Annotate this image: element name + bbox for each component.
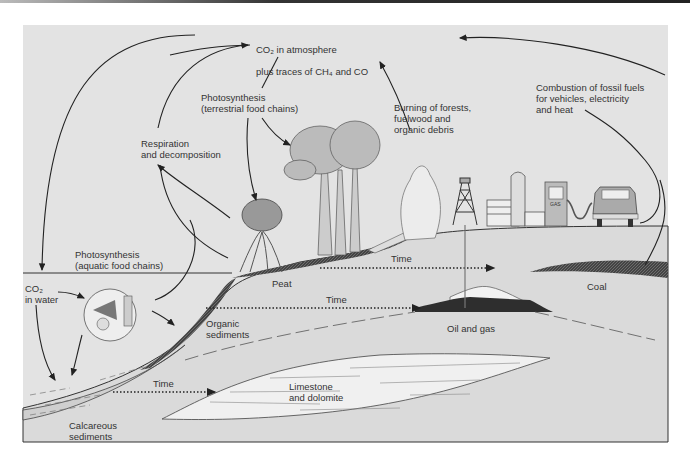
arrow-sediment-to-respiration — [160, 165, 228, 258]
arrow-plankton-to-organic — [152, 311, 174, 325]
arrow-water-to-calcareous — [36, 305, 55, 380]
arrow-water-to-plankton — [58, 292, 84, 298]
label-atmosphere-line1: CO₂ in atmosphere — [256, 44, 368, 55]
car-illustration — [593, 187, 638, 227]
arrow-combustion-to-atmosphere — [460, 37, 665, 75]
arrow-photosynthesis-to-trees — [262, 118, 290, 145]
label-time-1: Time — [391, 253, 412, 264]
label-terrestrial-photosynthesis: Photosynthesis (terrestrial food chains) — [201, 92, 298, 114]
label-organic-sediments: Organic sediments — [206, 318, 249, 340]
arrow-mangrove-to-respiration — [158, 165, 230, 218]
label-combustion: Combustion of fossil fuels for vehicles,… — [536, 82, 644, 115]
plankton-illustration — [84, 289, 136, 341]
label-time-3: Time — [153, 378, 174, 389]
label-burning: Burning of forests, fuelwood and organic… — [394, 102, 471, 135]
mangrove-illustration — [240, 199, 282, 272]
forest-illustration — [284, 121, 415, 255]
label-peat: Peat — [272, 278, 292, 289]
arrow-respiration-to-atmosphere — [158, 45, 248, 128]
label-calcareous: Calcareous sediments — [69, 420, 117, 442]
label-coal: Coal — [587, 281, 607, 292]
label-limestone: Limestone and dolomite — [289, 381, 343, 403]
arrow-plankton-to-calcareous — [72, 335, 82, 375]
refinery-illustration — [487, 172, 545, 226]
label-aquatic-photosynthesis: Photosynthesis (aquatic food chains) — [75, 249, 163, 271]
label-oil-gas: Oil and gas — [447, 323, 495, 334]
label-atmosphere: CO₂ in atmosphere plus traces of CH₄ and… — [256, 33, 368, 88]
label-pump-sign: GAS — [550, 201, 561, 207]
fire-smoke-illustration — [401, 166, 441, 240]
label-co2-water: CO₂ in water — [25, 283, 58, 305]
label-respiration: Respiration and decomposition — [141, 138, 221, 160]
label-atmosphere-line2: plus traces of CH₄ and CO — [256, 66, 368, 77]
arrow-photosynthesis-to-mangrove — [247, 118, 256, 200]
label-time-2: Time — [326, 294, 347, 305]
